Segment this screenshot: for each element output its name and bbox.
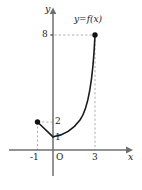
function-label: y=f(x)	[74, 15, 102, 24]
x-tick-label-neg1: -1	[30, 153, 39, 162]
endpoint-dot-3-8	[92, 32, 97, 37]
graph-canvas	[0, 0, 142, 190]
curve-linear-branch	[38, 122, 54, 137]
endpoint-markers	[35, 32, 98, 124]
y-tick-label-8: 8	[42, 30, 48, 39]
endpoint-dot-neg1-2	[35, 119, 40, 124]
origin-label: O	[56, 153, 63, 162]
y-axis-arrowhead	[50, 8, 57, 15]
function-graph-figure: y x O -1 3 1 2 8 y=f(x)	[0, 0, 142, 190]
y-tick-label-1: 1	[55, 133, 61, 142]
y-tick-label-2: 2	[55, 117, 61, 126]
axes	[9, 8, 133, 177]
function-curve	[38, 35, 96, 137]
y-axis-label: y	[45, 4, 50, 14]
x-axis-label: x	[128, 152, 133, 162]
x-tick-label-3: 3	[92, 153, 98, 162]
